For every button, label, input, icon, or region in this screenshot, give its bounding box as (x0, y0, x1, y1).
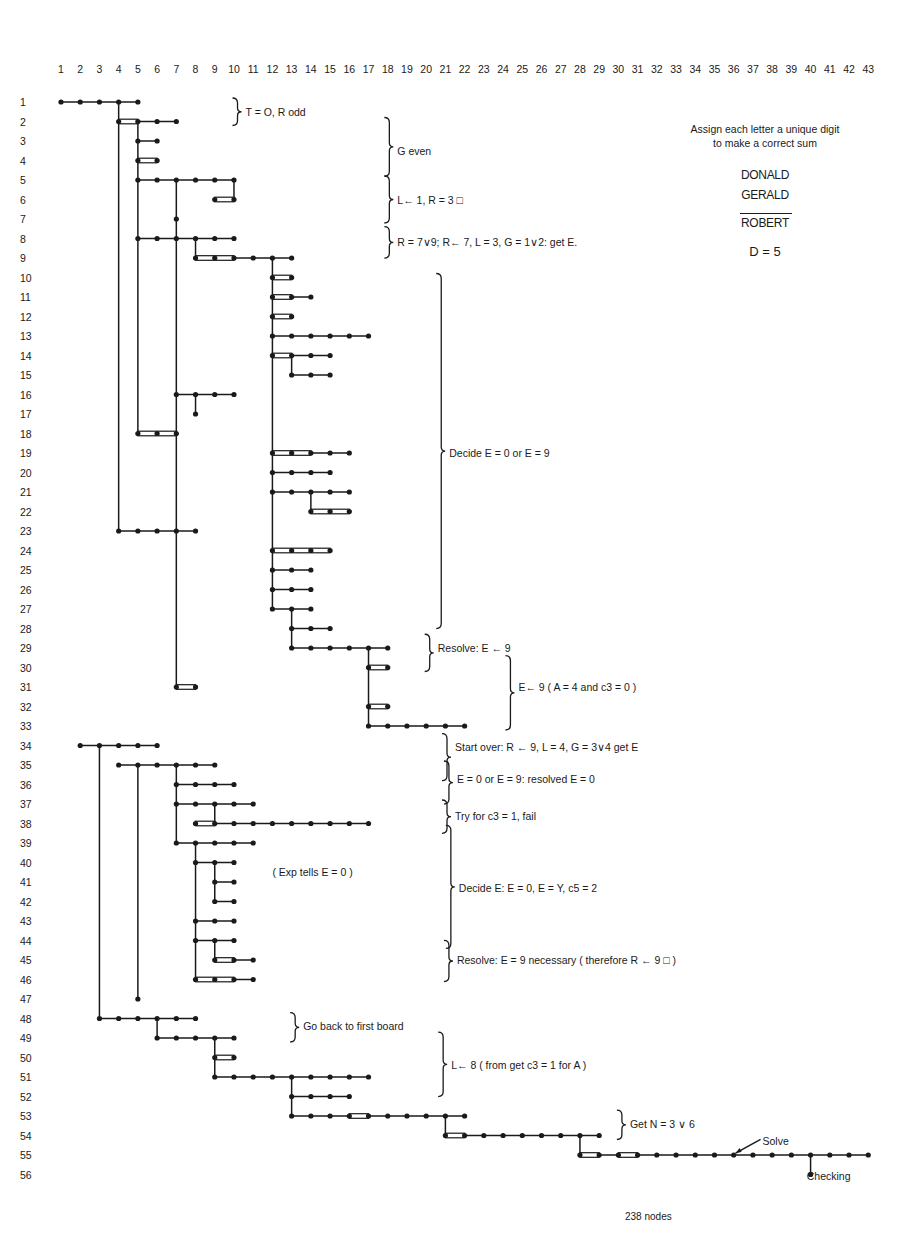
state-node (404, 1113, 409, 1118)
repeat-state-edge (215, 197, 234, 202)
state-node (116, 743, 121, 748)
row-label: 13 (20, 330, 32, 342)
column-label: 31 (632, 63, 644, 75)
state-node (193, 255, 198, 260)
state-node (712, 1152, 717, 1157)
row-label: 10 (20, 272, 32, 284)
state-node (58, 99, 63, 104)
state-node (193, 977, 198, 982)
state-node (270, 294, 275, 299)
column-label: 13 (286, 63, 298, 75)
state-node (174, 801, 179, 806)
state-node (462, 1133, 467, 1138)
brace-icon (384, 227, 393, 258)
state-node (212, 840, 217, 845)
state-node (174, 431, 179, 436)
column-label: 39 (786, 63, 798, 75)
state-node (327, 626, 332, 631)
brace-icon (505, 656, 514, 730)
state-node (327, 353, 332, 358)
state-node (424, 723, 429, 728)
state-node (693, 1152, 698, 1157)
state-node (308, 606, 313, 611)
state-node (193, 392, 198, 397)
state-node (462, 723, 467, 728)
state-node (231, 840, 236, 845)
state-node (385, 723, 390, 728)
state-node (385, 1113, 390, 1118)
state-node (289, 645, 294, 650)
annotation-a11: ( Exp tells E = 0 ) (272, 866, 352, 878)
state-node (366, 821, 371, 826)
state-node (231, 860, 236, 865)
state-node (251, 840, 256, 845)
repeat-state-edge (119, 119, 138, 124)
state-node (174, 684, 179, 689)
annotation-a9: E = 0 or E = 9: resolved E = 0 (457, 773, 595, 785)
row-label: 24 (20, 545, 32, 557)
state-node (251, 801, 256, 806)
state-node (424, 1113, 429, 1118)
state-node (193, 1016, 198, 1021)
row-label: 54 (20, 1130, 32, 1142)
repeat-state-edge (272, 353, 291, 358)
row-label: 34 (20, 740, 32, 752)
state-node (251, 821, 256, 826)
column-label: 5 (135, 63, 141, 75)
state-node (212, 821, 217, 826)
state-node (366, 333, 371, 338)
state-node (673, 1152, 678, 1157)
annotation-a8: Start over: R ← 9, L = 4, G = 3∨4 get E (455, 741, 638, 753)
row-label: 46 (20, 974, 32, 986)
state-node (155, 158, 160, 163)
state-node (308, 821, 313, 826)
state-node (308, 587, 313, 592)
row-label: 23 (20, 525, 32, 537)
state-node (193, 840, 198, 845)
state-node (231, 255, 236, 260)
state-node (231, 821, 236, 826)
given-d-value: D = 5 (715, 244, 815, 259)
row-label: 2 (20, 116, 26, 128)
row-label: 1 (20, 96, 26, 108)
state-node (270, 587, 275, 592)
column-label: 41 (824, 63, 836, 75)
state-node (212, 1035, 217, 1040)
repeat-state-edge (272, 295, 291, 300)
row-label: 14 (20, 350, 32, 362)
state-node (97, 743, 102, 748)
state-node (866, 1152, 871, 1157)
state-node (308, 548, 313, 553)
row-label: 36 (20, 779, 32, 791)
row-label: 21 (20, 486, 32, 498)
state-node (135, 762, 140, 767)
annotations: T = O, R oddG evenL← 1, R = 3 □R = 7∨9; … (233, 98, 851, 1182)
column-label: 19 (401, 63, 413, 75)
state-node (174, 762, 179, 767)
state-node (231, 177, 236, 182)
sum-rule-line (740, 213, 792, 214)
state-node (251, 1074, 256, 1079)
state-node (327, 489, 332, 494)
row-label: 19 (20, 447, 32, 459)
state-node (366, 1113, 371, 1118)
state-node (174, 840, 179, 845)
state-node (289, 567, 294, 572)
arrowhead-icon (736, 1148, 742, 1153)
repeat-state-edge (369, 665, 388, 670)
row-label: 39 (20, 837, 32, 849)
state-node (347, 1094, 352, 1099)
state-node (347, 1074, 352, 1079)
brace-icon (444, 940, 453, 981)
column-label: 1 (58, 63, 64, 75)
state-node (327, 821, 332, 826)
state-node (270, 606, 275, 611)
row-label: 52 (20, 1091, 32, 1103)
graph-edges (61, 102, 868, 1175)
repeat-state-edge (369, 704, 388, 709)
row-label: 22 (20, 506, 32, 518)
row-label: 51 (20, 1071, 32, 1083)
state-node (193, 762, 198, 767)
brace-icon (438, 1032, 447, 1097)
state-node (385, 645, 390, 650)
